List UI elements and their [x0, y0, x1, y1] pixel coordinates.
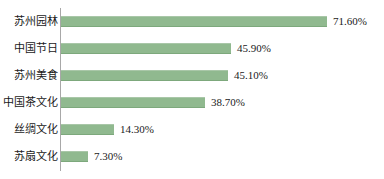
bar-row: 苏州园林 71.60% [0, 8, 384, 35]
bar-row: 苏扇文化 7.30% [0, 143, 384, 170]
category-label: 中国节日 [14, 35, 58, 62]
bar-segment [61, 70, 228, 81]
bar-value-label: 14.30% [120, 116, 154, 143]
bar-track: 45.10% [61, 62, 384, 89]
bar-segment [61, 97, 205, 108]
category-label: 丝绸文化 [14, 116, 58, 143]
bar-value-label: 7.30% [94, 143, 122, 170]
bar-track: 14.30% [61, 116, 384, 143]
bar-value-label: 71.60% [333, 8, 367, 35]
category-label: 苏州园林 [14, 8, 58, 35]
bar-value-label: 38.70% [211, 89, 245, 116]
bar-value-label: 45.10% [234, 62, 268, 89]
category-label: 苏扇文化 [14, 143, 58, 170]
bar-segment [61, 151, 88, 162]
bar-row: 苏州美食 45.10% [0, 62, 384, 89]
bar-segment [61, 16, 327, 27]
bar-track: 38.70% [61, 89, 384, 116]
bar-chart: 苏州园林 71.60% 中国节日 45.90% 苏州美食 45.10% 中国茶文… [0, 0, 384, 179]
bar-row: 中国节日 45.90% [0, 35, 384, 62]
bar-segment [61, 43, 231, 54]
plot-area: 苏州园林 71.60% 中国节日 45.90% 苏州美食 45.10% 中国茶文… [0, 8, 384, 171]
category-label: 中国茶文化 [3, 89, 58, 116]
bar-row: 丝绸文化 14.30% [0, 116, 384, 143]
bar-track: 45.90% [61, 35, 384, 62]
bar-segment [61, 124, 114, 135]
bar-value-label: 45.90% [237, 35, 271, 62]
category-label: 苏州美食 [14, 62, 58, 89]
bar-track: 71.60% [61, 8, 384, 35]
bar-row: 中国茶文化 38.70% [0, 89, 384, 116]
bar-track: 7.30% [61, 143, 384, 170]
